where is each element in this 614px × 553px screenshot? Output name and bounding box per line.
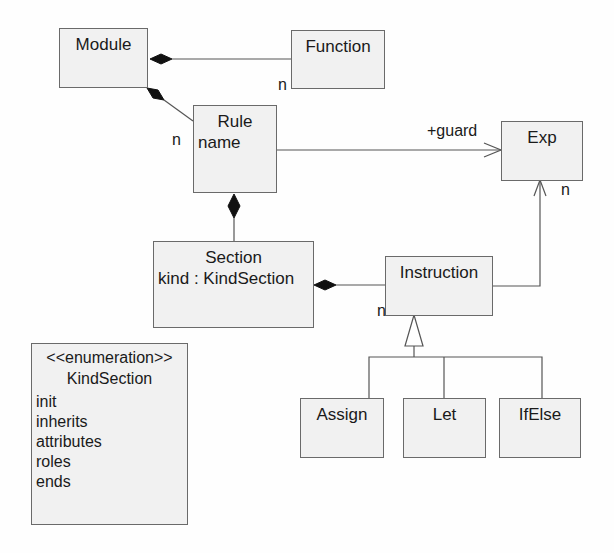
- instruction-exp-association: [492, 180, 540, 286]
- class-instruction[interactable]: Instruction: [385, 256, 493, 316]
- class-let[interactable]: Let: [403, 398, 486, 458]
- module-rule-association: [164, 100, 193, 121]
- class-assign[interactable]: Assign: [300, 398, 384, 458]
- enum-stereotype: <<enumeration>>: [32, 347, 187, 368]
- enum-name: KindSection: [32, 368, 187, 389]
- class-attribute: name: [194, 132, 276, 154]
- enum-literal: inherits: [32, 412, 187, 432]
- class-function[interactable]: Function: [291, 30, 385, 89]
- class-name: Instruction: [386, 263, 492, 283]
- class-name: Let: [404, 405, 485, 425]
- enum-literal: init: [32, 392, 187, 412]
- class-name: Rule: [194, 112, 276, 132]
- class-name: Function: [292, 37, 384, 57]
- module-function-diamond: [150, 54, 172, 64]
- class-attribute: kind : KindSection: [154, 268, 313, 290]
- guard-role-label: +guard: [427, 122, 477, 140]
- enumeration-kindsection[interactable]: <<enumeration>> KindSection init inherit…: [31, 343, 188, 525]
- generalization-triangle: [405, 315, 423, 346]
- enum-literal: ends: [32, 472, 187, 492]
- class-rule[interactable]: Rule name: [193, 105, 277, 193]
- class-name: Section: [154, 248, 313, 268]
- module-rule-diamond: [147, 88, 164, 100]
- rule-multiplicity: n: [172, 131, 181, 149]
- enum-literal: attributes: [32, 432, 187, 452]
- generalization-branch: [369, 357, 542, 398]
- class-exp[interactable]: Exp: [501, 121, 583, 181]
- uml-class-diagram: Module Function n Rule name n +guard Exp…: [0, 0, 614, 553]
- class-name: IfElse: [500, 405, 580, 425]
- class-section[interactable]: Section kind : KindSection: [153, 241, 314, 328]
- instruction-multiplicity: n: [377, 302, 386, 320]
- enum-literal: roles: [32, 452, 187, 472]
- class-ifelse[interactable]: IfElse: [499, 398, 581, 458]
- class-name: Module: [60, 35, 147, 55]
- class-name: Assign: [301, 405, 383, 425]
- exp-multiplicity: n: [561, 181, 570, 199]
- function-multiplicity: n: [278, 76, 287, 94]
- class-module[interactable]: Module: [59, 28, 148, 88]
- rule-section-diamond: [228, 194, 240, 218]
- class-name: Exp: [502, 128, 582, 148]
- section-instruction-diamond: [314, 280, 336, 290]
